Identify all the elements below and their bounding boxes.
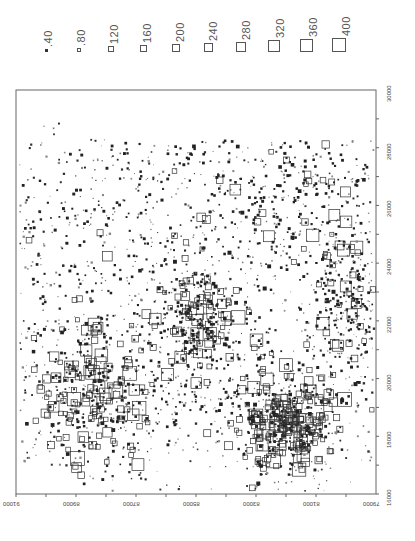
y-tick-label: 30000 xyxy=(386,85,392,102)
data-points xyxy=(19,123,375,492)
y-tick-label: 16000 xyxy=(386,489,392,506)
x-tick-label: 79000 xyxy=(363,501,380,507)
x-tick-label: 91000 xyxy=(3,501,20,507)
scatter-plot xyxy=(0,0,415,541)
x-tick-label: 85000 xyxy=(183,501,200,507)
y-tick-label: 18000 xyxy=(386,432,392,449)
y-tick-label: 20000 xyxy=(386,374,392,391)
y-tick-label: 24000 xyxy=(386,258,392,275)
chart-stage: .40.80120160200240280320360400 910008900… xyxy=(0,0,415,541)
y-tick-label: 22000 xyxy=(386,316,392,333)
x-tick-label: 83000 xyxy=(243,501,260,507)
y-tick-label: 28000 xyxy=(386,143,392,160)
x-tick-label: 87000 xyxy=(123,501,140,507)
plot-frame xyxy=(16,90,376,494)
y-tick-label: 26000 xyxy=(386,201,392,218)
x-tick-label: 89000 xyxy=(63,501,80,507)
x-tick-label: 81000 xyxy=(303,501,320,507)
